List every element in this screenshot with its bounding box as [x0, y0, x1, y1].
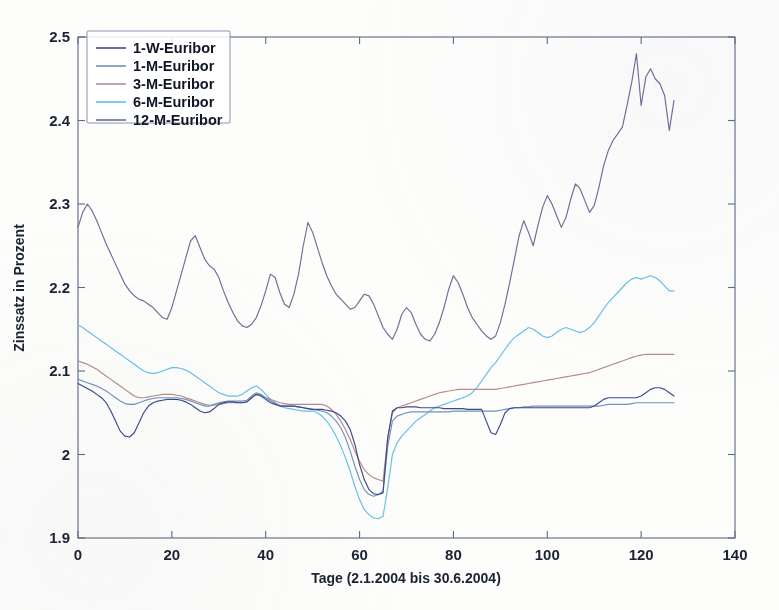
- series-line-3-m-euribor: [78, 354, 674, 481]
- x-axis-title: Tage (2.1.2004 bis 30.6.2004): [311, 570, 501, 586]
- x-tick-label: 100: [535, 546, 560, 563]
- legend-label-6-m-euribor: 6-M-Euribor: [133, 94, 215, 110]
- y-tick-label: 2.3: [49, 195, 70, 212]
- legend-label-3-m-euribor: 3-M-Euribor: [133, 76, 215, 92]
- y-axis-title: Zinssatz in Prozent: [11, 224, 27, 352]
- legend: 1-W-Euribor1-M-Euribor3-M-Euribor6-M-Eur…: [87, 31, 230, 128]
- x-tick-label: 20: [164, 546, 181, 563]
- x-tick-label: 120: [629, 546, 654, 563]
- x-tick-label: 40: [257, 546, 274, 563]
- chart-svg: 0204060801001201401.922.12.22.32.42.5 Ta…: [0, 0, 779, 610]
- x-tick-label: 80: [445, 546, 462, 563]
- legend-label-12-m-euribor: 12-M-Euribor: [133, 112, 223, 128]
- y-tick-label: 2.4: [49, 112, 71, 129]
- y-tick-label: 2.5: [49, 28, 70, 45]
- legend-label-1-m-euribor: 1-M-Euribor: [133, 58, 215, 74]
- y-tick-label: 2.2: [49, 279, 70, 296]
- legend-label-1-w-euribor: 1-W-Euribor: [133, 40, 216, 56]
- series-line-1-w-euribor: [78, 384, 674, 495]
- x-tick-label: 60: [351, 546, 368, 563]
- y-tick-label: 2: [62, 446, 70, 463]
- x-tick-label: 0: [74, 546, 82, 563]
- x-tick-label: 140: [722, 546, 747, 563]
- y-tick-label: 1.9: [49, 529, 70, 546]
- figure-canvas: 0204060801001201401.922.12.22.32.42.5 Ta…: [0, 0, 779, 610]
- y-tick-label: 2.1: [49, 362, 70, 379]
